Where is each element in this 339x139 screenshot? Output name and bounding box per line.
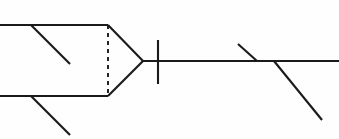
segment-group [0,25,339,135]
upper-converging-edge [108,25,143,61]
line-diagram-svg [0,0,339,139]
long-diagonal-tail [274,61,322,120]
diagram-canvas [0,0,339,139]
short-diagonal-tick [238,44,257,61]
lower-left-diagonal-branch [31,96,70,135]
lower-converging-edge [108,61,143,96]
upper-left-diagonal-branch [31,25,70,64]
